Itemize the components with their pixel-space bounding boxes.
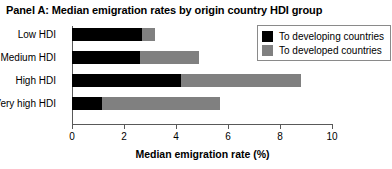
- x-tick-mark: [176, 125, 177, 129]
- bar-segment: [72, 74, 181, 87]
- x-tick-mark: [280, 125, 281, 129]
- bar-segment: [72, 97, 102, 110]
- y-axis-category-label: Very high HDI: [0, 98, 56, 109]
- x-tick-mark: [228, 125, 229, 129]
- bar-segment: [181, 74, 301, 87]
- x-tick-label: 0: [69, 131, 75, 142]
- bar-segment: [102, 97, 220, 110]
- legend-label: To developing countries: [279, 31, 384, 42]
- x-tick-label: 2: [121, 131, 127, 142]
- y-axis-category-label: Low HDI: [18, 29, 56, 40]
- x-axis-line: [72, 124, 333, 125]
- legend-label: To developed countries: [279, 45, 382, 56]
- legend-item: To developed countries: [262, 43, 386, 57]
- chart-legend: To developing countries To developed cou…: [257, 25, 391, 61]
- x-tick-label: 6: [225, 131, 231, 142]
- bar-segment: [72, 28, 142, 41]
- x-axis-label: Median emigration rate (%): [72, 148, 333, 160]
- x-tick-label: 4: [173, 131, 179, 142]
- bar-segment: [72, 51, 140, 64]
- bar-segment: [140, 51, 200, 64]
- x-tick-label: 10: [326, 131, 337, 142]
- chart-panel: Panel A: Median emigration rates by orig…: [0, 0, 392, 169]
- x-tick-mark: [124, 125, 125, 129]
- legend-swatch-developed: [262, 45, 273, 56]
- bar-segment: [142, 28, 155, 41]
- y-axis-category-label: Medium HDI: [0, 52, 56, 63]
- x-tick-mark: [332, 125, 333, 129]
- x-tick-label: 8: [277, 131, 283, 142]
- x-tick-mark: [72, 125, 73, 129]
- legend-swatch-developing: [262, 31, 273, 42]
- page-title: Panel A: Median emigration rates by orig…: [6, 4, 322, 16]
- y-axis-category-label: High HDI: [15, 75, 56, 86]
- legend-item: To developing countries: [262, 29, 386, 43]
